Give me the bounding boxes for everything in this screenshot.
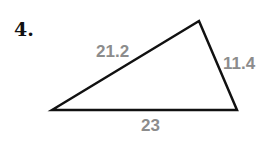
side-label-top-right: 11.4: [223, 54, 256, 73]
triangle-diagram: 21.2 11.4 23: [0, 0, 279, 141]
side-label-left-top: 21.2: [96, 42, 129, 61]
side-label-bottom: 23: [141, 116, 160, 135]
triangle: [52, 21, 237, 110]
